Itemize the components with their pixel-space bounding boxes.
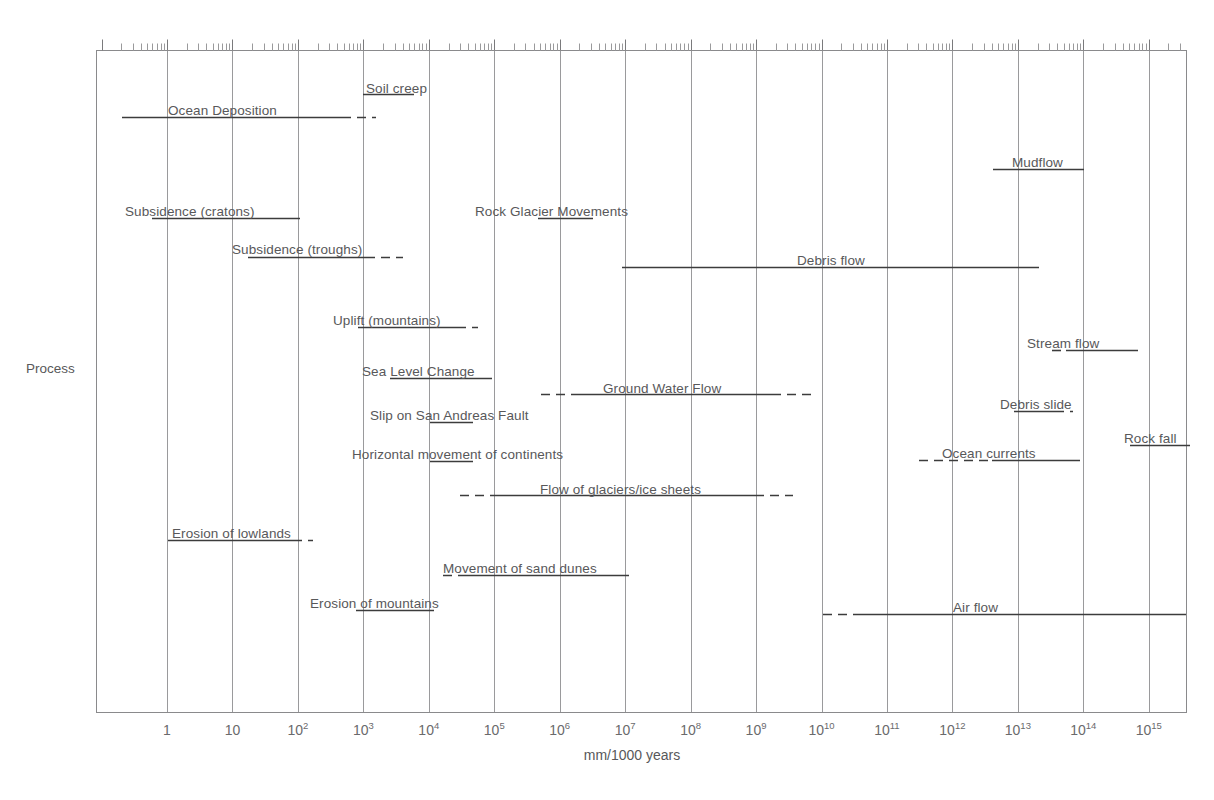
x-tick-mantissa: 10 — [418, 722, 434, 738]
x-tick-exponent: 14 — [1086, 720, 1097, 731]
bar-label: Slip on San Andreas Fault — [370, 409, 529, 423]
process-rate-chart: Soil creepOcean DepositionMudflowSubside… — [0, 0, 1214, 800]
x-tick-exponent: 6 — [565, 720, 570, 731]
x-tick-mantissa: 10 — [939, 722, 955, 738]
x-tick-exponent: 5 — [499, 720, 504, 731]
bar-label: Rock fall — [1124, 432, 1177, 446]
x-tick-exponent: 15 — [1151, 720, 1162, 731]
x-tick-label: 104 — [418, 723, 439, 737]
x-tick-label: 1012 — [939, 723, 965, 737]
x-tick-mantissa: 10 — [680, 722, 696, 738]
x-tick-mantissa: 10 — [225, 722, 241, 738]
bar-label: Ocean Deposition — [168, 104, 277, 118]
x-tick-exponent: 8 — [696, 720, 701, 731]
x-axis-title: mm/1000 years — [584, 747, 680, 763]
x-tick-label: 1014 — [1070, 723, 1096, 737]
x-tick-label: 1015 — [1136, 723, 1162, 737]
bar-label: Horizontal movement of continents — [352, 448, 563, 462]
bar-label: Subsidence (troughs) — [232, 243, 362, 257]
bar-label: Debris slide — [1000, 398, 1072, 412]
x-tick-mantissa: 10 — [874, 722, 890, 738]
bar-label: Subsidence (cratons) — [125, 205, 255, 219]
bar-label: Flow of glaciers/ice sheets — [540, 483, 701, 497]
bar-label: Erosion of mountains — [310, 597, 439, 611]
bar-label: Ocean currents — [942, 447, 1036, 461]
x-tick-label: 106 — [549, 723, 570, 737]
x-tick-exponent: 11 — [890, 720, 900, 731]
x-tick-label: 102 — [287, 723, 308, 737]
bar-label: Rock Glacier Movements — [475, 205, 628, 219]
x-tick-mantissa: 10 — [287, 722, 303, 738]
x-tick-mantissa: 1 — [163, 722, 171, 738]
bar-label: Ground Water Flow — [603, 382, 721, 396]
x-tick-mantissa: 10 — [549, 722, 565, 738]
bar-label: Soil creep — [366, 82, 427, 96]
x-tick-label: 103 — [353, 723, 374, 737]
x-tick-label: 1 — [163, 723, 171, 737]
x-tick-mantissa: 10 — [1070, 722, 1086, 738]
bar-label: Stream flow — [1027, 337, 1099, 351]
x-tick-label: 109 — [746, 723, 767, 737]
bar-label: Erosion of lowlands — [172, 527, 291, 541]
y-axis-title: Process — [26, 361, 75, 376]
x-tick-mantissa: 10 — [615, 722, 631, 738]
x-tick-mantissa: 10 — [353, 722, 369, 738]
x-tick-exponent: 7 — [630, 720, 635, 731]
x-tick-mantissa: 10 — [746, 722, 762, 738]
bar-label: Movement of sand dunes — [443, 562, 597, 576]
bar-label: Sea Level Change — [362, 365, 475, 379]
bar-label: Air flow — [953, 601, 998, 615]
x-tick-label: 107 — [615, 723, 636, 737]
x-tick-mantissa: 10 — [808, 722, 824, 738]
x-tick-mantissa: 10 — [1005, 722, 1021, 738]
x-tick-exponent: 10 — [824, 720, 835, 731]
bar-label: Debris flow — [797, 254, 865, 268]
x-tick-exponent: 2 — [303, 720, 308, 731]
bar-label: Uplift (mountains) — [333, 314, 441, 328]
x-tick-label: 10 — [225, 723, 241, 737]
x-tick-label: 108 — [680, 723, 701, 737]
x-tick-exponent: 4 — [434, 720, 439, 731]
x-tick-exponent: 3 — [368, 720, 373, 731]
bar-label: Mudflow — [1012, 156, 1063, 170]
x-tick-exponent: 12 — [955, 720, 966, 731]
x-tick-label: 1011 — [874, 723, 899, 737]
x-tick-label: 105 — [484, 723, 505, 737]
x-tick-mantissa: 10 — [1136, 722, 1152, 738]
x-tick-mantissa: 10 — [484, 722, 500, 738]
x-tick-exponent: 9 — [761, 720, 766, 731]
x-tick-exponent: 13 — [1020, 720, 1031, 731]
x-tick-label: 1010 — [808, 723, 834, 737]
x-tick-label: 1013 — [1005, 723, 1031, 737]
